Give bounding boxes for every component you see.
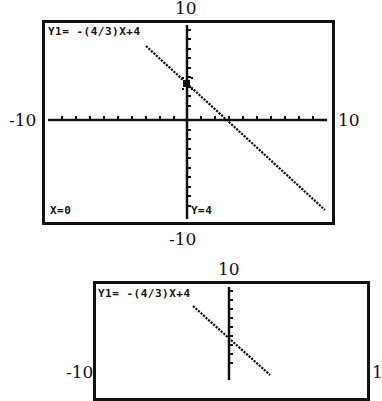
graph2-equation-label: Y1= -(4/3)X+4 — [98, 288, 191, 299]
graph2-function-line — [193, 306, 270, 375]
